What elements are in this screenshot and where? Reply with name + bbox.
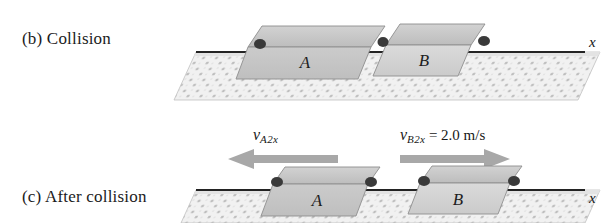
bumper-a-left-b: [254, 39, 266, 49]
glider-a-label-c: A: [311, 191, 323, 210]
glider-b-label-b: B: [419, 51, 430, 70]
velocity-b-label: vB2x = 2.0 m/s: [400, 126, 485, 145]
glider-a-b: A: [236, 26, 385, 79]
velocity-b-value: 2.0 m/s: [441, 127, 485, 143]
panel-c-caption: (c) After collision: [22, 187, 147, 207]
x-axis-label-c: x: [589, 190, 596, 207]
bumper-b-right-c: [508, 176, 520, 186]
bumper-b-left-c: [418, 176, 430, 186]
velocity-a-subscript: A2x: [260, 133, 278, 145]
velocity-b-arrow-right-icon: [398, 148, 510, 170]
bumper-a-left-c: [271, 177, 283, 187]
physics-figure: (b) Collision: [0, 0, 610, 223]
glider-b-c: B: [408, 166, 522, 214]
velocity-b-equals: =: [429, 127, 437, 143]
air-track-b: [174, 52, 600, 100]
glider-a-c: A: [261, 167, 380, 216]
glider-b-label-c: B: [453, 190, 464, 209]
velocity-b-subscript: B2x: [407, 133, 425, 145]
glider-b-b: B: [373, 24, 485, 76]
bumper-contact-b: [378, 37, 389, 47]
bumper-b-right-b: [478, 36, 490, 46]
velocity-a-label: vA2x: [253, 126, 278, 145]
velocity-a-arrow-left-icon: [228, 148, 340, 170]
glider-a-label-b: A: [299, 53, 311, 72]
panel-b-caption: (b) Collision: [22, 29, 111, 49]
air-track-c: [181, 190, 600, 223]
bumper-a-right-c: [365, 177, 377, 187]
x-axis-label-b: x: [589, 34, 596, 51]
